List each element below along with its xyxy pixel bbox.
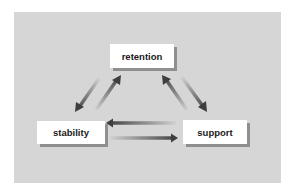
arrow-support-to-stability	[106, 119, 176, 128]
node-stability: stability	[37, 121, 105, 144]
node-support-label: support	[197, 127, 232, 138]
arrow-stability-to-support	[110, 134, 178, 143]
node-retention: retention	[110, 44, 174, 68]
node-retention-label: retention	[122, 51, 163, 62]
node-stability-label: stability	[53, 127, 89, 138]
arrows-layer	[0, 0, 296, 193]
node-support: support	[183, 120, 247, 144]
